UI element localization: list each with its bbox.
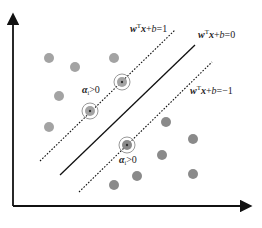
class-b-point	[132, 171, 142, 181]
class-a-point	[54, 91, 64, 101]
class-a-point	[44, 122, 54, 132]
decision-boundary-equation: wTx+b=0	[198, 28, 235, 40]
equation-labels: wTx+b=1wTx+b=0wTx+b=−1αi>0αi>0	[82, 22, 235, 166]
support-vector	[119, 137, 135, 153]
svm-diagram: wTx+b=1wTx+b=0wTx+b=−1αi>0αi>0	[0, 0, 262, 228]
class-a-point	[109, 53, 119, 63]
support-vector	[82, 103, 98, 119]
class-b-point	[188, 134, 198, 144]
support-vector	[114, 74, 130, 90]
upper-margin-equation: wTx+b=1	[130, 22, 167, 34]
alpha-label: αi>0	[82, 84, 100, 96]
data-points	[44, 53, 198, 190]
hyperplane-lines	[40, 30, 212, 192]
class-b-point	[157, 150, 167, 160]
axes	[13, 15, 250, 206]
class-b-point	[109, 180, 119, 190]
class-b-point	[161, 117, 171, 127]
class-a-point	[44, 53, 54, 63]
class-b-point	[188, 169, 198, 179]
lower-margin-equation: wTx+b=−1	[190, 84, 233, 96]
alpha-label: αi>0	[119, 154, 137, 166]
class-a-point	[70, 62, 80, 72]
